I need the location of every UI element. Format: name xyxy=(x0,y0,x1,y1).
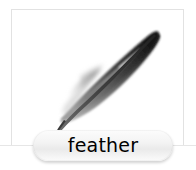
feather-icon xyxy=(40,14,165,136)
word-label-pill[interactable]: feather xyxy=(33,130,173,161)
feather-illustration xyxy=(40,14,165,136)
flashcard-root: feather xyxy=(0,0,196,170)
feather-shaft xyxy=(58,34,156,131)
word-label-text: feather xyxy=(68,136,138,156)
